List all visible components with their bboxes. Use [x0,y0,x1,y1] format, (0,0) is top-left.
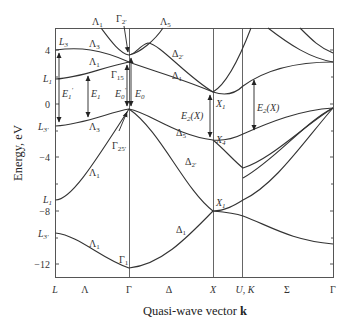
pointer-gamma25p [119,112,127,131]
band-gamma2p [101,28,213,92]
label-delta2p-top: Δ2′ [172,48,184,61]
label-l3p-up: L3′ [37,121,49,134]
label-delta1-top: Δ1 [172,70,182,83]
band-l3-top [56,49,334,94]
label-e0: E0 [134,88,145,101]
label-gamma2p: Γ2′ [116,13,127,26]
band-lambda5-up [129,28,163,55]
label-l3: L3 [58,36,69,49]
x-tick-labels: L Λ Γ Δ X U, K Σ Γ [51,284,336,295]
label-e2x-a: E2(X) [180,110,204,123]
label-e0p: E0′ [114,86,127,101]
label-delta1-low: Δ1 [176,224,186,237]
label-gamma25p: Γ25′ [112,140,127,153]
ytick-0: 0 [45,99,50,110]
label-delta2p-low: Δ2′ [185,156,197,169]
label-lambda3-top: Λ3 [89,38,100,51]
band-structure-diagram: 4 0 −4 −8 −12 Λ1 [0,0,351,330]
label-gamma15: Γ15 [111,69,124,82]
pointer-gamma2p [124,26,128,52]
xtick-gamma-right: Γ [330,284,336,295]
label-e1p: E1′ [61,86,74,101]
label-l1-up: L1 [42,73,52,86]
ytick-m8: −8 [39,206,50,217]
xtick-gamma: Γ [126,284,132,295]
band-l3p-low [56,200,244,268]
label-x4: X4 [215,134,226,147]
label-e1: E1 [90,88,101,101]
ytick-m12: −12 [34,259,50,270]
label-l3p-low: L3′ [37,228,49,241]
band-sigma-up1 [268,28,333,62]
band-sigma-low [243,108,333,200]
xtick-lambda: Λ [81,284,89,295]
ytick-m4: −4 [39,152,50,163]
xtick-x: X [209,284,217,295]
label-x1-low: X1 [215,197,226,210]
band-sigma-mid1 [243,108,333,178]
ytick-4: 4 [45,45,50,56]
xtick-delta: Δ [166,284,173,295]
xtick-uk: U, K [236,284,256,295]
xtick-sigma: Σ [284,284,290,295]
band-delta1-up [213,28,251,92]
label-delta5: Δ5 [176,127,186,140]
band-sigma-up2 [300,28,333,53]
label-e2x-b: E2(X) [256,102,280,115]
label-x1-up: X1 [215,98,226,111]
label-lambda1-mid: Λ1 [89,56,100,69]
label-top-lambda1: Λ1 [92,16,103,29]
label-lambda1-low: Λ1 [89,167,100,180]
x-axis-label: Quasi-wave vector k [143,304,247,318]
label-lambda5: Λ5 [160,16,171,29]
label-lambda1-bottom: Λ1 [89,238,100,251]
xtick-l: L [51,284,58,295]
label-lambda3-low: Λ3 [89,121,100,134]
y-axis-label: Energy, eV [11,125,25,181]
band-delta2p [129,109,333,244]
